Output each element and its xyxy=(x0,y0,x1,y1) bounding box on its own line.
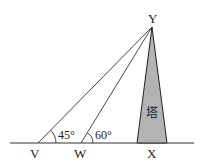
line-VY xyxy=(38,27,152,143)
diagram-canvas: 45° 60° 塔 Y V W X xyxy=(0,0,200,166)
point-label-Y: Y xyxy=(148,11,158,26)
angle-arc-W xyxy=(87,133,93,143)
point-label-X: X xyxy=(147,146,157,161)
angle-arc-V xyxy=(51,130,56,143)
angle-label-W: 60° xyxy=(95,128,112,142)
tower-label: 塔 xyxy=(146,106,158,120)
point-label-W: W xyxy=(74,146,87,161)
point-label-V: V xyxy=(30,146,40,161)
angle-label-V: 45° xyxy=(58,128,75,142)
